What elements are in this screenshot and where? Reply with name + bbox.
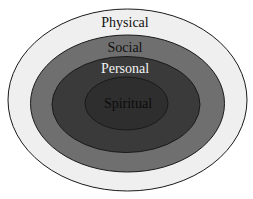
- nested-ellipse-diagram: Physical Social Personal Spiritual: [0, 0, 253, 199]
- label-spiritual: Spiritual: [104, 96, 152, 111]
- label-physical: Physical: [101, 15, 149, 30]
- label-social: Social: [108, 40, 143, 55]
- label-personal: Personal: [101, 61, 149, 76]
